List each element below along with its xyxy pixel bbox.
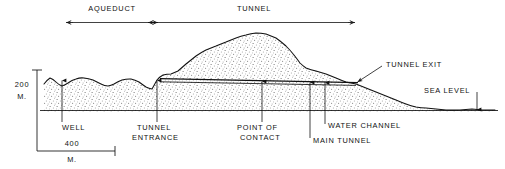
span-label-tunnel: TUNNEL [237, 4, 271, 14]
scale-vertical-unit: M. [17, 92, 27, 102]
annotation-sea-level: SEA LEVEL [424, 86, 470, 96]
annotation-water-channel: WATER CHANNEL [328, 121, 401, 131]
annotation-point-of-contact-line1: POINT OF [237, 123, 278, 133]
scale-horizontal-value: 400 [65, 139, 80, 149]
leader-tunnel-exit [358, 66, 383, 82]
annotation-main-tunnel: MAIN TUNNEL [313, 136, 371, 146]
annotation-tunnel-entrance-line2: ENTRANCE [132, 133, 179, 143]
terrain-profile [44, 33, 495, 112]
scale-horizontal-unit: M. [67, 155, 77, 165]
diagram-canvas: AQUEDUCT TUNNEL 200 M. 400 M. WELL TUNNE… [0, 0, 505, 169]
terrain-fill [44, 33, 495, 112]
scale-vertical-value: 200 [15, 80, 30, 90]
annotation-point-of-contact-line2: CONTACT [240, 133, 280, 143]
annotation-well: WELL [62, 123, 85, 133]
annotation-tunnel-entrance-line1: TUNNEL [137, 123, 171, 133]
span-label-aqueduct: AQUEDUCT [88, 4, 135, 14]
annotation-tunnel-exit: TUNNEL EXIT [386, 60, 442, 70]
